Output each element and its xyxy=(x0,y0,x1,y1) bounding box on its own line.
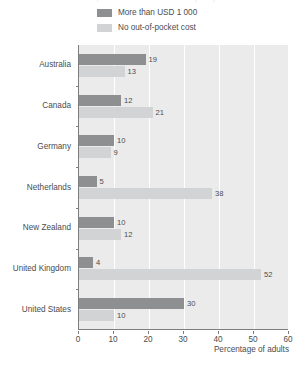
gridline xyxy=(219,45,220,329)
x-axis-tick xyxy=(148,331,149,334)
bar-value-label: 10 xyxy=(117,135,125,146)
bar xyxy=(79,54,146,65)
gridline xyxy=(254,45,255,329)
x-axis-tick-label: 10 xyxy=(103,335,123,344)
x-axis-tick-label: 0 xyxy=(68,335,88,344)
bar-value-label: 5 xyxy=(100,176,104,187)
x-axis-tick-label: 50 xyxy=(243,335,263,344)
bar xyxy=(79,229,121,240)
chart-legend: More than USD 1 000No out-of-pocket cost xyxy=(97,7,257,37)
gridline xyxy=(114,45,115,329)
bar-value-label: 30 xyxy=(187,298,195,309)
clipped-title: Out-of-pocket medical costs in the past … xyxy=(0,0,300,2)
x-axis-tick xyxy=(288,331,289,334)
category-label: New Zealand xyxy=(0,223,71,232)
bar-value-label: 52 xyxy=(264,269,272,280)
bar xyxy=(79,310,114,321)
x-axis-tick-label: 20 xyxy=(138,335,158,344)
y-axis-tick xyxy=(76,289,79,290)
bar-value-label: 9 xyxy=(114,147,118,158)
bar-value-label: 38 xyxy=(215,188,223,199)
bar-value-label: 10 xyxy=(117,217,125,228)
bar xyxy=(79,188,212,199)
bar-value-label: 13 xyxy=(128,66,136,77)
gridline xyxy=(149,45,150,329)
bar-value-label: 10 xyxy=(117,310,125,321)
x-axis-tick-label: 60 xyxy=(278,335,298,344)
bar xyxy=(79,269,261,280)
bar xyxy=(79,176,97,187)
category-label: United Kingdom xyxy=(0,264,71,273)
category-axis: AustraliaCanadaGermanyNetherlandsNew Zea… xyxy=(0,45,78,330)
category-label: Netherlands xyxy=(0,183,71,192)
bar-value-label: 19 xyxy=(149,54,157,65)
x-axis-ticks: 0102030405060 xyxy=(78,331,289,345)
gridline xyxy=(289,45,290,329)
bar xyxy=(79,135,114,146)
gridline xyxy=(184,45,185,329)
x-axis-tick xyxy=(78,331,79,334)
legend-label: No out-of-pocket cost xyxy=(118,24,196,32)
legend-swatch-dark xyxy=(97,9,112,17)
legend-swatch-light xyxy=(97,24,112,32)
y-axis-tick xyxy=(76,208,79,209)
plot-area: 1913122110953810124523010 xyxy=(78,45,288,330)
bar xyxy=(79,95,121,106)
legend-label: More than USD 1 000 xyxy=(118,9,197,17)
y-axis-tick xyxy=(76,167,79,168)
y-axis-tick xyxy=(76,86,79,87)
x-axis-tick xyxy=(113,331,114,334)
x-axis-tick-label: 30 xyxy=(173,335,193,344)
category-label: Australia xyxy=(0,60,71,69)
x-axis-title: Percentage of adults xyxy=(0,345,289,354)
bar-value-label: 12 xyxy=(124,95,132,106)
bar-value-label: 12 xyxy=(124,229,132,240)
category-label: Germany xyxy=(0,142,71,151)
bar xyxy=(79,217,114,228)
bar xyxy=(79,298,184,309)
y-axis-tick xyxy=(76,126,79,127)
x-axis-tick xyxy=(218,331,219,334)
bar xyxy=(79,107,153,118)
x-axis-tick-label: 40 xyxy=(208,335,228,344)
y-axis-tick xyxy=(76,249,79,250)
category-label: United States xyxy=(0,305,71,314)
bar xyxy=(79,257,93,268)
bar-chart: AustraliaCanadaGermanyNetherlandsNew Zea… xyxy=(0,45,300,345)
bar-value-label: 21 xyxy=(156,107,164,118)
legend-item: No out-of-pocket cost xyxy=(97,22,257,34)
category-label: Canada xyxy=(0,101,71,110)
legend-item: More than USD 1 000 xyxy=(97,7,257,19)
bar xyxy=(79,66,125,77)
bar xyxy=(79,147,111,158)
x-axis-tick xyxy=(253,331,254,334)
x-axis-tick xyxy=(183,331,184,334)
bar-value-label: 4 xyxy=(96,257,100,268)
